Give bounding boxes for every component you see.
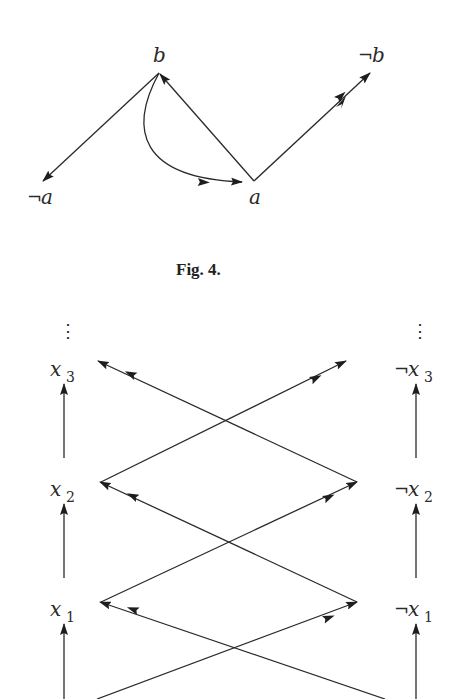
var: x: [408, 357, 419, 381]
figure-4: b ¬ b ¬ a a Fig. 4.: [27, 43, 385, 279]
figure-caption: Fig. 4.: [176, 260, 221, 279]
neg-symbol: ¬: [394, 599, 409, 620]
node-a-label: a: [249, 185, 261, 209]
edge-b-to-not-a: [43, 73, 159, 181]
var: x: [50, 477, 61, 501]
node-x3: x 3: [50, 357, 75, 385]
subscript: 3: [66, 369, 75, 385]
node-b-label: b: [153, 43, 166, 67]
node-x2: x 2: [50, 477, 75, 505]
figure-chain: ⋮ ⋮ x 3 x 2 x 1 ¬ x 3 ¬ x 2 ¬ x 1: [50, 320, 433, 699]
node-x1: x 1: [50, 597, 75, 625]
edge-b-to-a-curved: [144, 73, 242, 182]
ellipsis-left: ⋮: [59, 320, 77, 341]
arrowhead-icon: [198, 178, 210, 186]
subscript: 1: [424, 609, 433, 625]
subscript: 2: [424, 489, 433, 505]
neg-symbol: ¬: [27, 187, 42, 208]
var: x: [408, 477, 419, 501]
arrowhead-icon: [322, 612, 336, 624]
node-not-x2: ¬ x 2: [394, 477, 433, 505]
subscript: 3: [424, 369, 433, 385]
logic-implication-diagram: b ¬ b ¬ a a Fig. 4. ⋮ ⋮ x 3: [0, 0, 453, 699]
var: x: [408, 597, 419, 621]
not-a-var: a: [41, 185, 53, 209]
edge-not-x0-to-x1: [100, 602, 385, 699]
not-b-var: b: [372, 43, 385, 67]
subscript: 1: [66, 609, 75, 625]
arrowhead-icon: [125, 490, 139, 502]
edge-x0-to-not-x1: [97, 602, 357, 699]
neg-symbol: ¬: [358, 45, 373, 66]
node-not-x1: ¬ x 1: [394, 597, 433, 625]
ellipsis-right: ⋮: [411, 320, 429, 341]
neg-symbol: ¬: [394, 479, 409, 500]
edge-a-to-not-b: [254, 73, 370, 181]
subscript: 2: [66, 489, 75, 505]
node-not-x3: ¬ x 3: [394, 357, 433, 385]
neg-symbol: ¬: [394, 359, 409, 380]
var: x: [50, 357, 61, 381]
node-not-b-label: ¬ b: [358, 43, 385, 67]
edge-a-to-b: [160, 74, 254, 181]
node-not-a-label: ¬ a: [27, 185, 53, 209]
var: x: [50, 597, 61, 621]
